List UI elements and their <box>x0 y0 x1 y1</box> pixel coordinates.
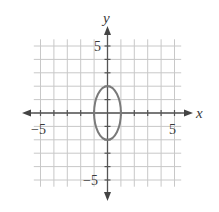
y-neg-tick-label: −5 <box>83 173 98 188</box>
y-pos-tick-label: 5 <box>94 39 101 54</box>
y-axis-up-arrow-icon <box>104 26 111 35</box>
x-pos-tick-label: 5 <box>169 122 176 137</box>
graph: y x −5 5 5 −5 <box>0 0 219 212</box>
x-axis-right-arrow-icon <box>184 110 193 117</box>
x-axis-label: x <box>195 105 203 121</box>
y-axis-down-arrow-icon <box>104 192 111 201</box>
x-axis-left-arrow-icon <box>22 110 31 117</box>
y-axis-label: y <box>101 10 110 26</box>
x-neg-tick-label: −5 <box>31 122 46 137</box>
